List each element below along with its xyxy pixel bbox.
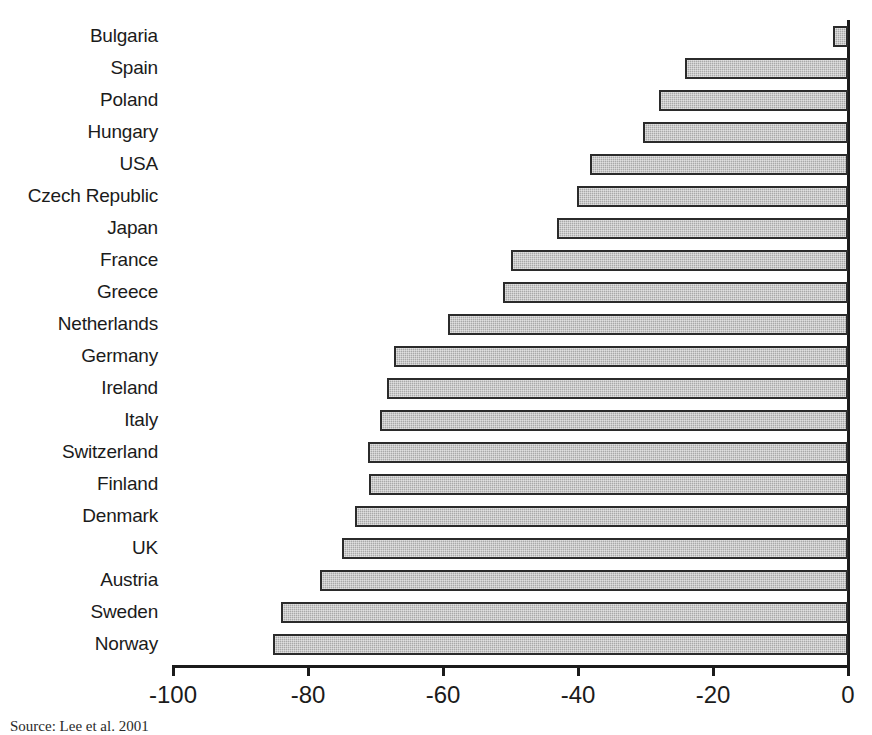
category-label-france: France [100,244,158,276]
x-tick-label: -80 [291,680,326,710]
bar-usa [590,154,848,175]
category-label-finland: Finland [97,468,158,500]
bar-finland [369,474,848,495]
bar-italy [380,410,848,431]
bar-japan [557,218,848,239]
x-tick-mark [307,665,310,676]
category-label-spain: Spain [110,52,158,84]
bar-uk [342,538,848,559]
category-label-uk: UK [132,532,158,564]
bar-row: Germany [0,340,872,372]
bar-germany [394,346,848,367]
category-label-switzerland: Switzerland [62,436,158,468]
bar-row: Bulgaria [0,20,872,52]
category-label-bulgaria: Bulgaria [90,20,158,52]
category-label-greece: Greece [97,276,158,308]
category-label-austria: Austria [100,564,158,596]
horizontal-bar-chart: BulgariaSpainPolandHungaryUSACzech Repub… [0,0,872,735]
bar-row: Spain [0,52,872,84]
bar-greece [503,282,848,303]
source-note: Source: Lee et al. 2001 [10,717,149,735]
bar-row: Finland [0,468,872,500]
bar-sweden [281,602,848,623]
bar-row: Switzerland [0,436,872,468]
bar-denmark [355,506,848,527]
bar-row: Netherlands [0,308,872,340]
category-label-denmark: Denmark [82,500,158,532]
x-tick-label: -20 [696,680,731,710]
bar-france [511,250,848,271]
bar-row: Ireland [0,372,872,404]
bar-spain [685,58,848,79]
bar-row: Italy [0,404,872,436]
x-axis-line [173,665,850,668]
bar-bulgaria [833,26,848,47]
x-tick-label: -40 [561,680,596,710]
bar-poland [659,90,848,111]
bar-austria [320,570,848,591]
bar-netherlands [448,314,848,335]
x-tick-mark [577,665,580,676]
bar-ireland [387,378,848,399]
category-label-germany: Germany [81,340,158,372]
bar-czech-republic [577,186,848,207]
category-label-netherlands: Netherlands [58,308,158,340]
bar-switzerland [368,442,848,463]
bar-row: USA [0,148,872,180]
category-label-usa: USA [120,148,158,180]
x-tick-label: -60 [426,680,461,710]
category-label-poland: Poland [100,84,158,116]
x-tick-mark [442,665,445,676]
category-label-japan: Japan [107,212,158,244]
category-label-italy: Italy [124,404,158,436]
x-tick-mark [847,665,850,676]
category-label-czech-republic: Czech Republic [28,180,158,212]
category-label-ireland: Ireland [101,372,158,404]
bar-hungary [643,122,848,143]
x-tick-mark [172,665,175,676]
category-label-norway: Norway [95,628,158,660]
x-tick-label: 0 [841,680,854,710]
bar-row: Japan [0,212,872,244]
bar-row: Norway [0,628,872,660]
bar-row: Hungary [0,116,872,148]
x-tick-mark [712,665,715,676]
x-tick-label: -100 [149,680,197,710]
bar-row: UK [0,532,872,564]
bar-norway [273,634,848,655]
category-label-sweden: Sweden [91,596,158,628]
bar-row: Austria [0,564,872,596]
bar-row: Denmark [0,500,872,532]
category-label-hungary: Hungary [88,116,158,148]
bar-row: Greece [0,276,872,308]
bar-row: Czech Republic [0,180,872,212]
bar-row: Sweden [0,596,872,628]
bar-row: France [0,244,872,276]
bar-row: Poland [0,84,872,116]
